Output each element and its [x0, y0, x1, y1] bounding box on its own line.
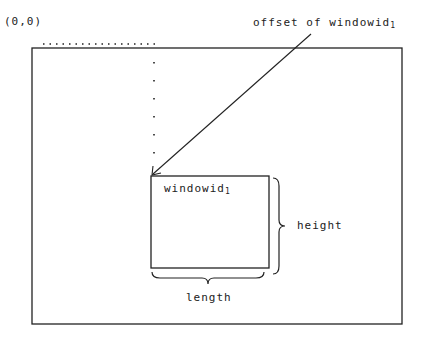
offset-arrow-shaft [153, 34, 311, 174]
length-brace [152, 272, 264, 284]
height-label: height [297, 219, 343, 232]
offset-label: offset of windowid1 [253, 16, 396, 30]
height-brace [273, 178, 285, 274]
origin-label: (0,0) [4, 15, 42, 28]
length-label: length [186, 291, 232, 304]
window-label: windowid1 [164, 182, 231, 196]
